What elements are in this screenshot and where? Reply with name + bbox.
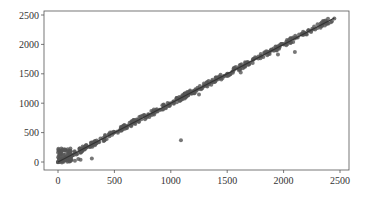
scatter-chart: 05001000150020002500 0500100015002000250… xyxy=(0,0,366,198)
x-tick-label: 2500 xyxy=(330,175,350,186)
y-axis: 05001000150020002500 xyxy=(19,10,44,168)
y-tick-label: 500 xyxy=(24,127,39,138)
x-tick-label: 1000 xyxy=(161,175,181,186)
x-tick-label: 1500 xyxy=(217,175,237,186)
y-tick-label: 1000 xyxy=(19,98,39,109)
x-tick-label: 0 xyxy=(56,175,61,186)
y-tick-label: 1500 xyxy=(19,68,39,79)
x-tick-label: 500 xyxy=(107,175,122,186)
y-tick-label: 2500 xyxy=(19,10,39,21)
x-tick-label: 2000 xyxy=(274,175,294,186)
y-tick-label: 0 xyxy=(34,157,39,168)
x-axis: 05001000150020002500 xyxy=(56,170,351,186)
y-tick-label: 2000 xyxy=(19,39,39,50)
